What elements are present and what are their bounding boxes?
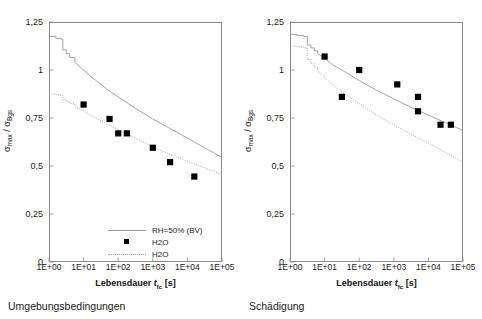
x-tick-label: 1E+05: [451, 263, 476, 272]
x-tick-label: 1E+03: [140, 263, 165, 272]
data-marker: [150, 145, 156, 151]
x-tick-label: 1E+01: [312, 263, 337, 272]
y-tick-label: 1,25: [266, 18, 284, 27]
x-axis-title-right: Lebensdauer tfc [s]: [290, 278, 463, 290]
data-marker: [115, 130, 121, 136]
legend-dotted-line-icon: [108, 249, 146, 259]
data-marker: [339, 94, 345, 100]
chart-panel-right: σmax / σBgs 00,250,50,7511,25 1E+001E+01…: [241, 0, 482, 319]
legend-item: RH=50% (BV): [108, 224, 202, 236]
x-tick-label: 1E+02: [106, 263, 131, 272]
legend-item: H2O: [108, 236, 202, 248]
x-tick-label: 1E+00: [278, 263, 303, 272]
x-tick-label: 1E+02: [347, 263, 372, 272]
data-marker: [81, 101, 87, 107]
legend-left: RH=50% (BV)H2OH2O: [108, 224, 202, 260]
legend-label: RH=50% (BV): [152, 226, 202, 235]
data-marker: [437, 122, 443, 128]
data-marker: [322, 53, 328, 59]
data-marker: [415, 108, 421, 114]
chart-panel-left: σmax / σBgs 00,250,50,7511,25 1E+001E+01…: [0, 0, 241, 319]
data-marker: [394, 81, 400, 87]
legend-item: H2O: [108, 248, 202, 260]
x-axis-title-left: Lebensdauer tfc [s]: [49, 278, 222, 290]
data-marker: [106, 116, 112, 122]
x-axis-labels-right: 1E+001E+011E+021E+031E+041E+05: [241, 263, 482, 277]
data-marker: [448, 122, 454, 128]
data-marker: [356, 67, 362, 73]
y-axis-title-left: σmax / σBgs: [2, 96, 16, 166]
data-marker: [124, 130, 130, 136]
x-axis-labels-left: 1E+001E+011E+021E+031E+041E+05: [0, 263, 241, 277]
plot-svg-right: [290, 22, 463, 262]
y-axis-labels-left: σmax / σBgs 00,250,50,7511,25: [0, 0, 49, 262]
data-marker: [415, 94, 421, 100]
y-tick-label: 1,25: [25, 18, 43, 27]
series-line: [290, 46, 463, 162]
x-tick-label: 1E+05: [210, 263, 235, 272]
y-tick-label: 1: [38, 66, 43, 75]
plot-area-right: [290, 22, 463, 262]
y-tick-label: 0,75: [266, 114, 284, 123]
x-tick-label: 1E+04: [175, 263, 200, 272]
legend-square-marker-icon: [108, 237, 146, 247]
y-tick-label: 0,75: [25, 114, 43, 123]
data-marker: [167, 159, 173, 165]
data-marker: [191, 173, 197, 179]
y-tick-label: 1: [279, 66, 284, 75]
x-tick-label: 1E+04: [416, 263, 441, 272]
caption-right: Schädigung: [249, 300, 304, 312]
y-tick-label: 0,25: [25, 210, 43, 219]
y-tick-label: 0,25: [266, 210, 284, 219]
figure-root: σmax / σBgs 00,250,50,7511,25 1E+001E+01…: [0, 0, 482, 319]
x-tick-label: 1E+01: [71, 263, 96, 272]
legend-label: H2O: [152, 238, 168, 247]
y-axis-title-right: σmax / σBgs: [243, 96, 257, 166]
y-axis-labels-right: σmax / σBgs 00,250,50,7511,25: [241, 0, 290, 262]
series-line: [49, 36, 222, 157]
x-tick-label: 1E+00: [37, 263, 62, 272]
caption-left: Umgebungsbedingungen: [8, 300, 125, 312]
series-line: [290, 34, 463, 130]
y-tick-label: 0,5: [30, 162, 43, 171]
x-tick-label: 1E+03: [381, 263, 406, 272]
legend-label: H2O: [152, 250, 168, 259]
y-tick-label: 0,5: [271, 162, 284, 171]
legend-solid-line-icon: [108, 225, 146, 235]
series-line: [49, 94, 222, 175]
